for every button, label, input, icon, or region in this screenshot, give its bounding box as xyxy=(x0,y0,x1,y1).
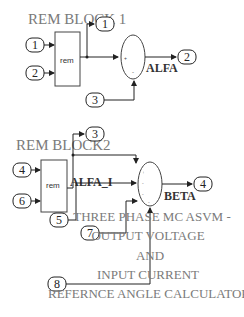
rem-block-1[interactable]: rem xyxy=(55,32,80,86)
svg-text:+: + xyxy=(124,55,127,61)
svg-text:+: + xyxy=(142,170,145,175)
svg-text:4: 4 xyxy=(200,177,206,191)
inport-3[interactable]: 3 xyxy=(86,93,104,107)
svg-text:3: 3 xyxy=(92,127,98,141)
svg-text:2: 2 xyxy=(32,66,38,80)
svg-text:THREE PHASE MC ASVM -: THREE PHASE MC ASVM - xyxy=(73,209,230,224)
svg-text:INPUT CURRENT: INPUT CURRENT xyxy=(97,267,199,282)
svg-text:AND: AND xyxy=(136,248,164,263)
svg-text:REFERNCE ANGLE CALCULATOR: REFERNCE ANGLE CALCULATOR xyxy=(48,286,244,301)
inport-1[interactable]: 1 xyxy=(26,38,44,52)
inport-4[interactable]: 4 xyxy=(13,163,31,177)
sum-block-2[interactable]: + - - - xyxy=(138,162,162,206)
svg-text:5: 5 xyxy=(56,213,62,227)
svg-text:4: 4 xyxy=(19,163,25,177)
outport-3[interactable]: 3 xyxy=(86,127,104,141)
svg-text:1: 1 xyxy=(32,38,38,52)
svg-text:2: 2 xyxy=(184,50,190,64)
inport-6[interactable]: 6 xyxy=(13,194,31,208)
sum-block-1[interactable]: + - xyxy=(121,35,145,79)
alfa-label: ALFA xyxy=(146,61,178,75)
svg-text:6: 6 xyxy=(19,194,25,208)
svg-text:OUTPUT VOLTAGE: OUTPUT VOLTAGE xyxy=(91,228,204,243)
outport-1[interactable]: 1 xyxy=(96,17,114,31)
svg-text:rem: rem xyxy=(60,56,74,65)
svg-text:-: - xyxy=(132,69,134,75)
outport-2[interactable]: 2 xyxy=(178,50,196,64)
svg-text:1: 1 xyxy=(102,17,108,31)
svg-text:3: 3 xyxy=(92,93,98,107)
beta-label: BETA xyxy=(164,189,196,203)
simulink-diagram: REM BLOCK 1 1 2 rem 1 + - ALFA 2 3 xyxy=(0,0,244,317)
subsystem-caption: THREE PHASE MC ASVM - OUTPUT VOLTAGE AND… xyxy=(48,209,244,301)
inport-2[interactable]: 2 xyxy=(26,66,44,80)
rem-block-2[interactable]: rem xyxy=(41,160,67,212)
inport-5[interactable]: 5 xyxy=(50,213,68,227)
svg-text:rem: rem xyxy=(46,181,60,190)
outport-4[interactable]: 4 xyxy=(194,177,212,191)
